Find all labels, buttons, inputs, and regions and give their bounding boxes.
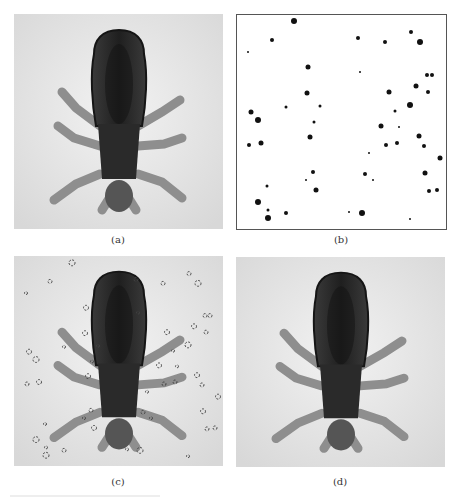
panel-a-original-image [14, 14, 223, 229]
panel-d-caption: (d) [320, 476, 360, 487]
insect-illustration-restored [236, 257, 445, 467]
panel-b-caption: (b) [321, 234, 361, 245]
panel-d-restored-image [236, 257, 445, 467]
panel-a-caption: (a) [98, 234, 138, 245]
panel-b-binary-mask [236, 14, 447, 230]
insect-illustration-with-noise [14, 256, 223, 466]
figure-footer-rule [10, 495, 160, 497]
insect-illustration [14, 14, 223, 229]
panel-c-caption: (c) [98, 476, 138, 487]
panel-c-noisy-image [14, 256, 223, 466]
noise-dot-pattern [237, 15, 446, 229]
